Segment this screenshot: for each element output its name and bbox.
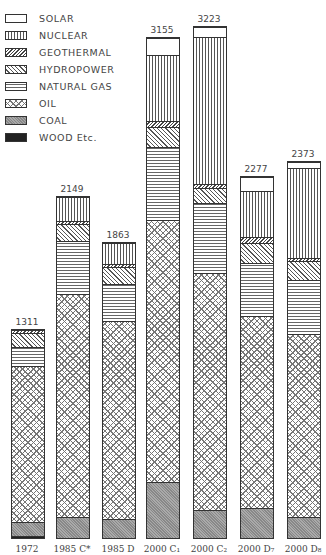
segment-oil [103,321,135,519]
oil-swatch-icon [5,99,27,108]
legend-label: NUCLEAR [39,30,88,41]
segment-hydropower [57,224,89,241]
bar-2000-d7 [240,176,274,539]
bar-total-label: 2277 [231,164,281,174]
bar-total-label: 1311 [2,317,52,327]
segment-hydropower [194,188,226,203]
segment-coal [103,519,135,538]
bar-total-label: 2149 [47,184,97,194]
segment-coal [241,508,273,538]
segment-oil [241,316,273,508]
legend-item-natural-gas: NATURAL GAS [5,78,115,95]
legend-item-wood: WOOD Etc. [5,129,115,146]
legend-item-coal: COAL [5,112,115,129]
legend-label: GEOTHERMAL [39,47,111,58]
segment-wood [12,536,44,538]
bar-1985-d [102,242,136,539]
segment-hydropower [12,333,44,347]
bar-2000-c2 [193,26,227,539]
segment-oil [57,294,89,517]
legend-item-nuclear: NUCLEAR [5,27,115,44]
segment-natural-gas [194,203,226,273]
segment-solar [194,27,226,37]
bar-1985-c [56,196,90,539]
legend-item-solar: SOLAR [5,10,115,27]
segment-natural-gas [241,263,273,316]
segment-nuclear [147,55,179,122]
legend-label: SOLAR [39,13,74,24]
stacked-bar-chart: SOLARNUCLEARGEOTHERMALHYDROPOWERNATURAL … [0,0,326,555]
segment-coal [12,522,44,536]
legend-item-oil: OIL [5,95,115,112]
bar-2000-c1 [146,37,180,539]
segment-solar [241,177,273,191]
segment-nuclear [194,37,226,183]
legend-item-hydropower: HYDROPOWER [5,61,115,78]
coal-swatch-icon [5,116,27,125]
wood-swatch-icon [5,133,27,142]
bar-total-label: 3155 [137,25,187,35]
segment-oil [147,220,179,482]
legend-label: WOOD Etc. [39,132,97,143]
segment-hydropower [241,243,273,263]
segment-natural-gas [147,147,179,220]
solar-swatch-icon [5,14,27,23]
segment-hydropower [147,127,179,147]
segment-oil [288,334,320,517]
segment-natural-gas [288,280,320,334]
legend-label: OIL [39,98,56,109]
segment-nuclear [241,191,273,237]
category-label: 2000 D₈ [275,544,326,554]
segment-coal [147,482,179,538]
segment-hydropower [103,267,135,285]
segment-natural-gas [57,241,89,295]
segment-oil [12,366,44,522]
segment-coal [288,517,320,538]
segment-nuclear [57,197,89,220]
legend: SOLARNUCLEARGEOTHERMALHYDROPOWERNATURAL … [5,10,115,146]
segment-oil [194,273,226,511]
legend-item-geothermal: GEOTHERMAL [5,44,115,61]
segment-hydropower [288,261,320,280]
hydropower-swatch-icon [5,65,27,74]
nuclear-swatch-icon [5,31,27,40]
bar-total-label: 2373 [278,149,326,159]
segment-coal [194,510,226,538]
segment-coal [57,517,89,538]
segment-natural-gas [103,284,135,321]
bar-1972 [11,329,45,539]
segment-nuclear [103,243,135,264]
legend-label: HYDROPOWER [39,64,115,75]
geothermal-swatch-icon [5,48,27,57]
bar-2000-d8 [287,161,321,539]
bar-total-label: 1863 [93,230,143,240]
natural-gas-swatch-icon [5,82,27,91]
bar-total-label: 3223 [184,14,234,24]
legend-label: NATURAL GAS [39,81,112,92]
legend-label: COAL [39,115,67,126]
segment-natural-gas [12,347,44,366]
segment-solar [147,38,179,55]
segment-nuclear [288,168,320,259]
